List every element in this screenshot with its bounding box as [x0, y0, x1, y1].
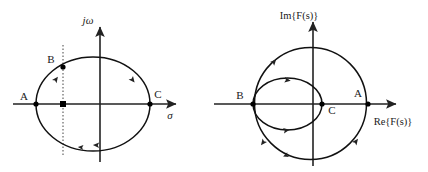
- point-B-f-plane: [250, 101, 255, 106]
- square-marker-s-plane: [60, 101, 66, 107]
- label-point-A-f-plane: A: [354, 87, 362, 99]
- label-point-C-s-plane: C: [154, 88, 161, 100]
- label-point-B-s-plane: B: [47, 53, 54, 65]
- label-re-axis: Re{F(s)}: [374, 116, 413, 128]
- point-A-f-plane: [365, 101, 370, 106]
- point-C-s-plane: [147, 101, 152, 106]
- point-A-s-plane: [33, 101, 38, 106]
- label-sigma-axis: σ: [167, 109, 173, 121]
- label-point-A-s-plane: A: [20, 90, 28, 102]
- figure-nyquist-contour-mapping: A B C jω σ: [0, 0, 428, 172]
- label-point-B-f-plane: B: [236, 89, 243, 101]
- label-point-C-f-plane: C: [328, 104, 335, 116]
- label-jomega-axis: jω: [81, 14, 94, 26]
- label-im-axis: Im{F(s)}: [280, 10, 319, 22]
- point-B-s-plane: [60, 64, 65, 69]
- point-C-f-plane: [319, 101, 324, 106]
